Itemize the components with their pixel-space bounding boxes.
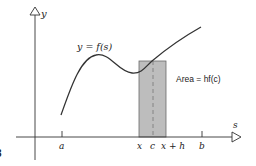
tick-label-a: a <box>59 141 64 151</box>
x-axis-label: s <box>233 120 238 130</box>
area-rectangle <box>139 61 166 137</box>
y-axis-label: y <box>40 8 47 19</box>
tick-label-c: c <box>150 141 155 151</box>
curve-label: y = f(s) <box>76 41 112 52</box>
tick-label-x: x <box>137 141 142 151</box>
y-axis-arrow-icon <box>30 7 40 15</box>
x-axis-arrow-icon <box>232 132 241 142</box>
area-diagram: y s y = f(s) Area = hf(c) a x c x + h b … <box>0 0 256 166</box>
area-label: Area = hf(c) <box>176 74 221 84</box>
tick-label-x-plus-h: x + h <box>161 141 185 151</box>
figure-number-fragment: 3 <box>0 148 2 159</box>
tick-label-b: b <box>199 141 205 151</box>
